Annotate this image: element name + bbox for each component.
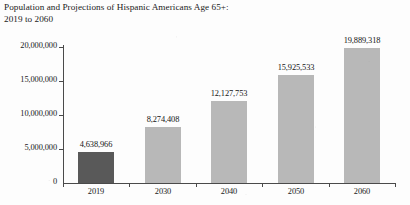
x-tick-mark-4 [329,183,330,187]
chart-figure: Population and Projections of Hispanic A… [0,0,410,205]
y-tick-label: 20,000,000 [1,42,57,50]
y-tick-label: 0 [1,178,57,186]
x-tick-label-2019: 2019 [66,188,126,196]
bar-value-2030: 8,274,408 [133,116,193,124]
x-tick-mark-2 [196,183,197,187]
plot-area: 20,000,000 15,000,000 10,000,000 5,000,0… [0,0,410,205]
y-tick-label: 15,000,000 [1,76,57,84]
x-tick-mark-3 [262,183,263,187]
y-tick-mark-10000000 [59,115,63,116]
x-tick-label-2040: 2040 [199,188,259,196]
x-tick-mark-0 [63,183,64,187]
y-tick-mark-20000000 [59,47,63,48]
x-tick-label-2060: 2060 [332,188,392,196]
y-tick-5000000: 5,000,000 [0,144,57,154]
y-tick-20000000: 20,000,000 [0,42,57,52]
x-tick-label-2030: 2030 [133,188,193,196]
y-tick-15000000: 15,000,000 [0,76,57,86]
bar-2019[interactable] [78,152,114,184]
y-axis-line [63,45,64,184]
x-tick-mark-1 [129,183,130,187]
y-tick-label: 5,000,000 [1,144,57,152]
y-tick-label: 10,000,000 [1,110,57,118]
bar-value-2019: 4,638,966 [66,141,126,149]
x-tick-label-2050: 2050 [266,188,326,196]
y-tick-mark-15000000 [59,81,63,82]
bar-2040[interactable] [211,101,247,184]
bar-value-2050: 15,925,533 [266,64,326,72]
bar-value-2040: 12,127,753 [199,90,259,98]
y-tick-10000000: 10,000,000 [0,110,57,120]
x-tick-mark-5 [395,183,396,187]
bar-2050[interactable] [278,75,314,183]
bar-2030[interactable] [145,127,181,183]
y-tick-0: 0 [0,178,57,188]
bar-2060[interactable] [344,48,380,183]
x-axis-line [63,183,396,184]
y-tick-mark-5000000 [59,149,63,150]
bar-value-2060: 19,889,318 [332,37,392,45]
